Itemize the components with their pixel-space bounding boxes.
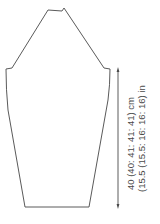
length-in-label: (15.5 (15.5: 16: 16: 16) in [136, 85, 147, 192]
length-cm-label: 40 (40: 41: 41: 41) cm [125, 97, 136, 190]
sleeve-diagram: 40 (40: 41: 41: 41) cm (15.5 (15.5: 16: … [0, 0, 160, 224]
length-arrow-icon [117, 67, 120, 209]
sleeve-shape [6, 8, 110, 207]
